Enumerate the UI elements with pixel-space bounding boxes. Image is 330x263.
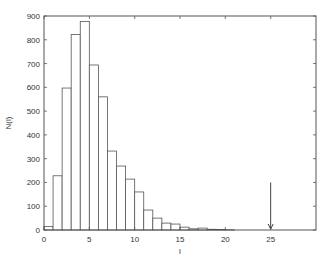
- histogram-bar: [144, 210, 153, 230]
- histogram-bar: [162, 223, 171, 230]
- histogram-bar: [98, 97, 107, 230]
- y-tick-label: 600: [27, 83, 41, 92]
- histogram-chart: 0100200300400500600700800900 0510152025 …: [0, 0, 330, 263]
- x-tick-label: 5: [87, 235, 92, 244]
- y-tick-label: 300: [27, 155, 41, 164]
- histogram-bar: [89, 65, 98, 230]
- annotation-arrow: [268, 182, 273, 229]
- histogram-bar: [53, 176, 62, 230]
- histogram-bar: [107, 151, 116, 230]
- y-tick-label: 500: [27, 107, 41, 116]
- histogram-bar: [71, 35, 80, 230]
- x-tick-label: 20: [221, 235, 230, 244]
- x-tick-label: 15: [176, 235, 185, 244]
- x-axis-label: l: [179, 247, 181, 256]
- y-tick-label: 0: [36, 226, 41, 235]
- histogram-bar: [135, 192, 144, 230]
- histogram-bar: [171, 224, 180, 230]
- y-tick-label: 800: [27, 36, 41, 45]
- y-tick-label: 200: [27, 178, 41, 187]
- histogram-bar: [62, 88, 71, 230]
- y-tick-label: 900: [27, 12, 41, 21]
- y-axis-label: N(l): [4, 116, 13, 129]
- histogram-bar: [126, 179, 135, 230]
- histogram-bar: [153, 218, 162, 230]
- y-tick-label: 400: [27, 131, 41, 140]
- x-tick-label: 25: [266, 235, 275, 244]
- y-tick-label: 700: [27, 60, 41, 69]
- histogram-bars: [44, 21, 234, 230]
- x-tick-label: 10: [130, 235, 139, 244]
- histogram-bar: [44, 226, 53, 230]
- x-tick-label: 0: [42, 235, 47, 244]
- histogram-bar: [117, 166, 126, 230]
- histogram-bar: [80, 21, 89, 230]
- y-tick-label: 100: [27, 202, 41, 211]
